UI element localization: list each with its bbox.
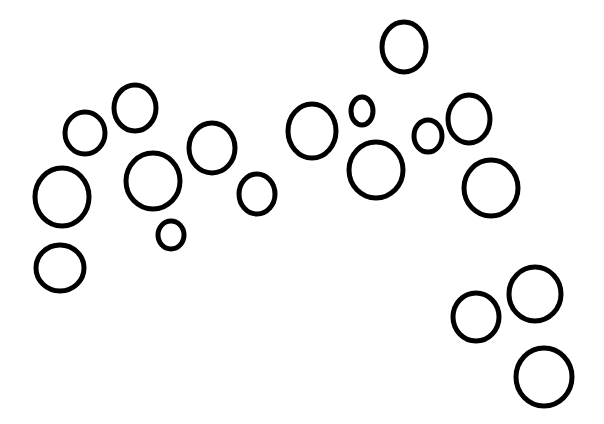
circles-drawing: [0, 0, 604, 424]
background: [0, 0, 604, 424]
